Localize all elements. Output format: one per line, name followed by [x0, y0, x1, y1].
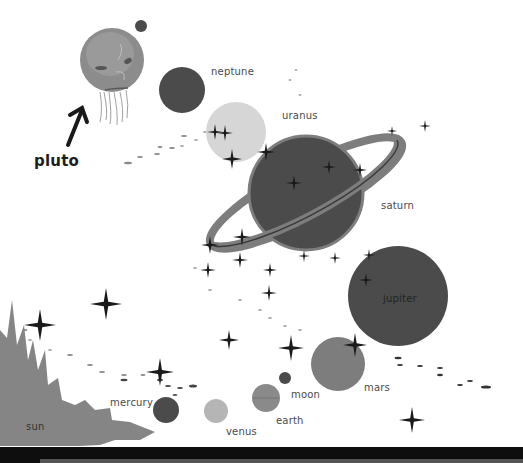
- bottom-bar-inner: [40, 459, 523, 463]
- saturn-label: saturn: [381, 200, 414, 211]
- pluto-arrow-icon: [68, 108, 87, 145]
- pluto-tentacles: [100, 90, 128, 125]
- earth-label: earth: [276, 415, 304, 426]
- moon: [279, 372, 291, 384]
- pluto-moon: [135, 20, 147, 32]
- neptune: [159, 67, 205, 113]
- illustration-canvas: [0, 0, 523, 463]
- mars-label: mars: [364, 382, 390, 393]
- venus: [204, 399, 228, 423]
- bottom-bar: [0, 447, 523, 463]
- sun-label: sun: [26, 421, 45, 432]
- uranus-label: uranus: [282, 110, 318, 121]
- mercury-label: mercury: [110, 397, 153, 408]
- jupiter-label: jupiter: [383, 293, 417, 304]
- pluto-label: pluto: [34, 152, 79, 170]
- sun-shape: [0, 300, 155, 446]
- moon-label: moon: [291, 389, 320, 400]
- solar-system-scene: neptune uranus saturn jupiter mars moon …: [0, 0, 523, 463]
- mercury: [153, 397, 179, 423]
- neptune-label: neptune: [211, 66, 254, 77]
- venus-label: venus: [226, 426, 257, 437]
